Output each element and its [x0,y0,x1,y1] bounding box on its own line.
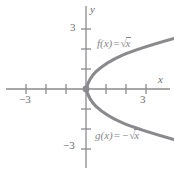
origin-point-marker [83,86,90,93]
x-tick-label-3: 3 [140,94,146,105]
x-tick-label-negative-3: −3 [19,94,31,105]
g-radicand: x [134,129,140,142]
g-negative-sign: − [121,129,129,141]
f-equals-sign: = [112,37,120,49]
y-axis-label: y [90,4,95,15]
curve-label-g-of-x: g(x)=−√x [95,129,140,142]
g-argument: (x) [101,129,113,141]
plot-canvas [0,0,174,172]
y-tick-label-3: 3 [70,22,76,33]
g-equals-sign: = [113,129,121,141]
f-radical-expression: √x [121,37,132,50]
curve-label-f-of-x: f(x)=√x [97,37,131,50]
x-axis-label: x [158,74,163,85]
f-argument: (x) [100,37,112,49]
square-root-function-figure: y x 3 −3 −3 3 f(x)=√x g(x)=−√x [0,0,174,172]
f-radicand: x [126,37,132,50]
y-tick-label-negative-3: −3 [63,140,75,151]
g-radical-expression: √x [129,129,140,142]
